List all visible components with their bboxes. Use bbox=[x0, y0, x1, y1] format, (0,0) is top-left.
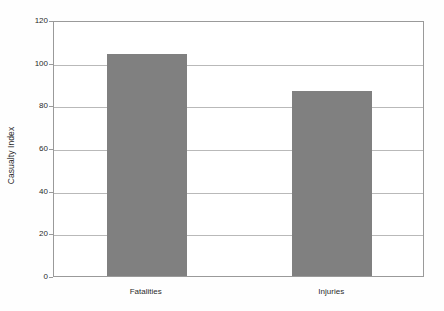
y-tick-label: 120 bbox=[0, 15, 48, 27]
y-tick-label: 60 bbox=[0, 143, 48, 155]
bar-fatalities bbox=[107, 54, 187, 276]
bar-injuries bbox=[292, 91, 372, 276]
y-tick-label: 0 bbox=[0, 271, 48, 283]
y-tick-label: 40 bbox=[0, 186, 48, 198]
x-tick-label-fatalities: Fatalities bbox=[53, 287, 239, 296]
x-tick-label-injuries: Injuries bbox=[239, 287, 425, 296]
bar-chart: Casualty Index 020406080100120 Fatalitie… bbox=[0, 0, 444, 311]
plot-area bbox=[53, 21, 424, 277]
y-axis-title: Casualty Index bbox=[0, 0, 22, 311]
y-tick-label: 80 bbox=[0, 100, 48, 112]
y-tick-label: 20 bbox=[0, 228, 48, 240]
y-tick-label: 100 bbox=[0, 58, 48, 70]
y-tick-mark bbox=[49, 277, 53, 278]
